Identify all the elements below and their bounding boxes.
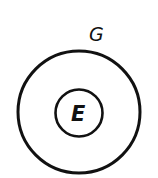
outer-set-label: G [89,23,104,45]
inner-set-label: E [71,102,86,126]
venn-diagram: G E [0,0,158,178]
